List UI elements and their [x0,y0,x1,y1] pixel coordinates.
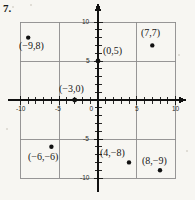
x-tick-label-5: 5 [135,106,139,113]
y-axis [94,3,101,192]
x-tick-label-10: 10 [172,106,179,113]
paper-speck [6,128,8,130]
y-tick-label-minus10: -10 [80,175,89,182]
paper-speck [178,54,180,56]
point-label-0-5: (0,5) [103,46,122,56]
x-axis-arrow [179,96,186,103]
coordinate-plane-graph [0,0,195,200]
y-tick-label-minus5: -5 [83,136,89,143]
x-tick-label-zero: 0 [90,106,94,113]
x-axis [8,96,186,103]
point-label-7-7: (7,7) [141,28,160,38]
point-label-neg9-8: (−9,8) [19,41,44,51]
data-point [158,168,162,172]
y-axis-arrow [94,3,101,11]
paper-speck [30,4,32,6]
point-label-neg3-0: (−3,0) [59,84,84,94]
paper-speck [186,150,188,152]
data-point [49,145,53,149]
worksheet-page: 7. [0,0,195,200]
data-point [72,98,77,103]
point-label-4-neg8: (4,−8) [100,148,125,158]
y-tick-label-10: 10 [82,19,89,26]
x-tick-label-minus10: -10 [16,106,25,113]
data-point [150,43,154,47]
point-label-8-neg9: (8,−9) [142,156,167,166]
x-tick-label-minus5: -5 [55,106,61,113]
data-point [127,160,131,164]
y-tick-label-5: 5 [86,58,90,65]
paper-speck [12,6,14,8]
point-label-neg6-neg6: (−6,−6) [28,152,58,162]
data-point [96,59,101,64]
